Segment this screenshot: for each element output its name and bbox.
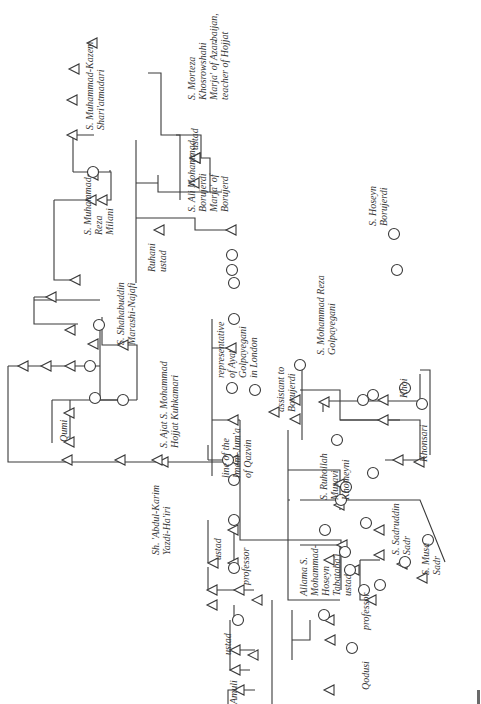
female-circle-icon	[229, 278, 240, 289]
person-label-imam-jum: line of the Imam-Jum'a of Qazvin	[220, 428, 253, 478]
male-triangle-icon	[393, 455, 403, 465]
male-triangle-icon	[69, 64, 79, 74]
person-label-tabatabai: Allama S. Mohammad- Hoseyn Tabataba'i us…	[298, 545, 353, 596]
male-triangle-icon	[115, 455, 125, 465]
male-triangle-icon	[152, 455, 162, 465]
female-circle-icon	[94, 320, 105, 331]
person-label-sadruddin: S. Sadruddin Sadr	[390, 503, 412, 555]
male-triangle-icon	[154, 225, 164, 235]
female-circle-icon	[118, 395, 129, 406]
female-circle-icon	[227, 265, 238, 276]
person-label-milani: S. Muhammad- Reza Milani	[82, 174, 115, 235]
male-triangle-icon	[67, 130, 77, 140]
kinship-link	[8, 366, 234, 462]
male-triangle-icon	[67, 95, 77, 105]
male-triangle-icon	[234, 585, 244, 595]
person-label-golpayegani: S. Mohammad Reza Golpayegani	[315, 275, 337, 355]
person-label-shariatmadari: S. Muhammad-Kazem Shari'atmadari	[84, 42, 106, 130]
person-label-musa-sadr: S. Musa Sadr	[420, 543, 442, 575]
male-triangle-icon	[226, 225, 236, 235]
male-triangle-icon	[230, 665, 240, 675]
kinship-link	[340, 420, 420, 460]
male-triangle-icon	[88, 339, 98, 349]
person-label-khoi: Khoi	[398, 379, 409, 398]
female-circle-icon	[358, 395, 369, 406]
male-triangle-icon	[18, 361, 28, 371]
female-circle-icon	[233, 615, 244, 626]
female-circle-icon	[361, 518, 372, 529]
person-label-professor-tabatabai: professor	[360, 593, 371, 630]
male-triangle-icon	[248, 650, 258, 660]
male-triangle-icon	[228, 415, 238, 425]
male-triangle-icon	[41, 361, 51, 371]
person-label-assistant: assistant to Borujerdi	[275, 367, 297, 412]
female-circle-icon	[368, 468, 379, 479]
male-triangle-icon	[65, 361, 75, 371]
male-triangle-icon	[374, 525, 384, 535]
person-label-hairi: Sh. 'Abdul-Karim Yazdi-Ha'iri	[150, 485, 172, 555]
person-label-borujerdi-ali: S. Ali Mohammad Borujerdi Marja' of Boru…	[186, 140, 230, 212]
female-circle-icon	[319, 610, 330, 621]
female-circle-icon	[375, 580, 386, 591]
female-circle-icon	[90, 393, 101, 404]
male-triangle-icon	[290, 414, 300, 424]
male-triangle-icon	[374, 550, 384, 560]
person-label-qumi: Qumi	[58, 420, 69, 442]
female-circle-icon	[85, 361, 96, 372]
female-circle-icon	[368, 390, 379, 401]
female-circle-icon	[227, 250, 238, 261]
page-edge-mark	[477, 690, 480, 704]
person-label-amuli: Amuli	[228, 680, 239, 704]
female-circle-icon	[400, 557, 411, 568]
female-circle-icon	[332, 435, 343, 446]
person-label-ustad-amuli: ustad	[222, 633, 233, 655]
person-label-khosrowshahi: S. Morteza Khosrowshahi Marja' of Azarba…	[186, 13, 230, 100]
female-circle-icon	[417, 399, 428, 410]
female-circle-icon	[320, 525, 331, 536]
male-triangle-icon	[252, 595, 262, 605]
person-label-golpayegani-rep: representative of Ayat Golpayegani in Lo…	[215, 322, 259, 378]
male-triangle-icon	[65, 325, 75, 335]
female-circle-icon	[229, 563, 240, 574]
male-triangle-icon	[64, 408, 74, 418]
kinship-link	[292, 610, 310, 660]
female-circle-icon	[229, 515, 240, 526]
person-label-marashi: S. Shahabuddin Marashi-Najafi	[115, 282, 137, 345]
kinship-link	[34, 297, 100, 324]
male-triangle-icon	[62, 455, 72, 465]
kinship-link	[230, 620, 255, 670]
male-triangle-icon	[319, 397, 329, 407]
male-triangle-icon	[325, 635, 335, 645]
female-circle-icon	[392, 265, 403, 276]
male-triangle-icon	[378, 395, 388, 405]
male-triangle-icon	[70, 275, 80, 285]
male-triangle-icon	[324, 685, 334, 695]
person-label-qodusi: Qodusi	[360, 661, 371, 690]
person-label-khonsari: Khonsari	[418, 425, 429, 462]
female-circle-icon	[389, 229, 400, 240]
person-label-professor-hairi: professor	[240, 548, 251, 585]
male-triangle-icon	[378, 415, 388, 425]
female-circle-icon	[250, 385, 261, 396]
person-label-hojjat: S. Ajat S. Mohammad Hojjat Kuhkamari	[158, 361, 180, 448]
person-label-hoseyn-borujerdi: S. Hoseyn Borujerdi	[367, 186, 389, 226]
person-label-ustad-hairi: ustad	[212, 538, 223, 560]
person-label-khomeyni: S. Ruhollah Musavi Khomeyni	[318, 453, 351, 500]
female-circle-icon	[227, 383, 238, 394]
male-triangle-icon	[228, 525, 238, 535]
kinship-diagram: S. Muhammad-Kazem Shari'atmadariS. Morte…	[0, 0, 481, 704]
person-label-ruhani: Ruhani ustad	[146, 243, 168, 272]
male-triangle-icon	[207, 600, 217, 610]
female-circle-icon	[347, 643, 358, 654]
